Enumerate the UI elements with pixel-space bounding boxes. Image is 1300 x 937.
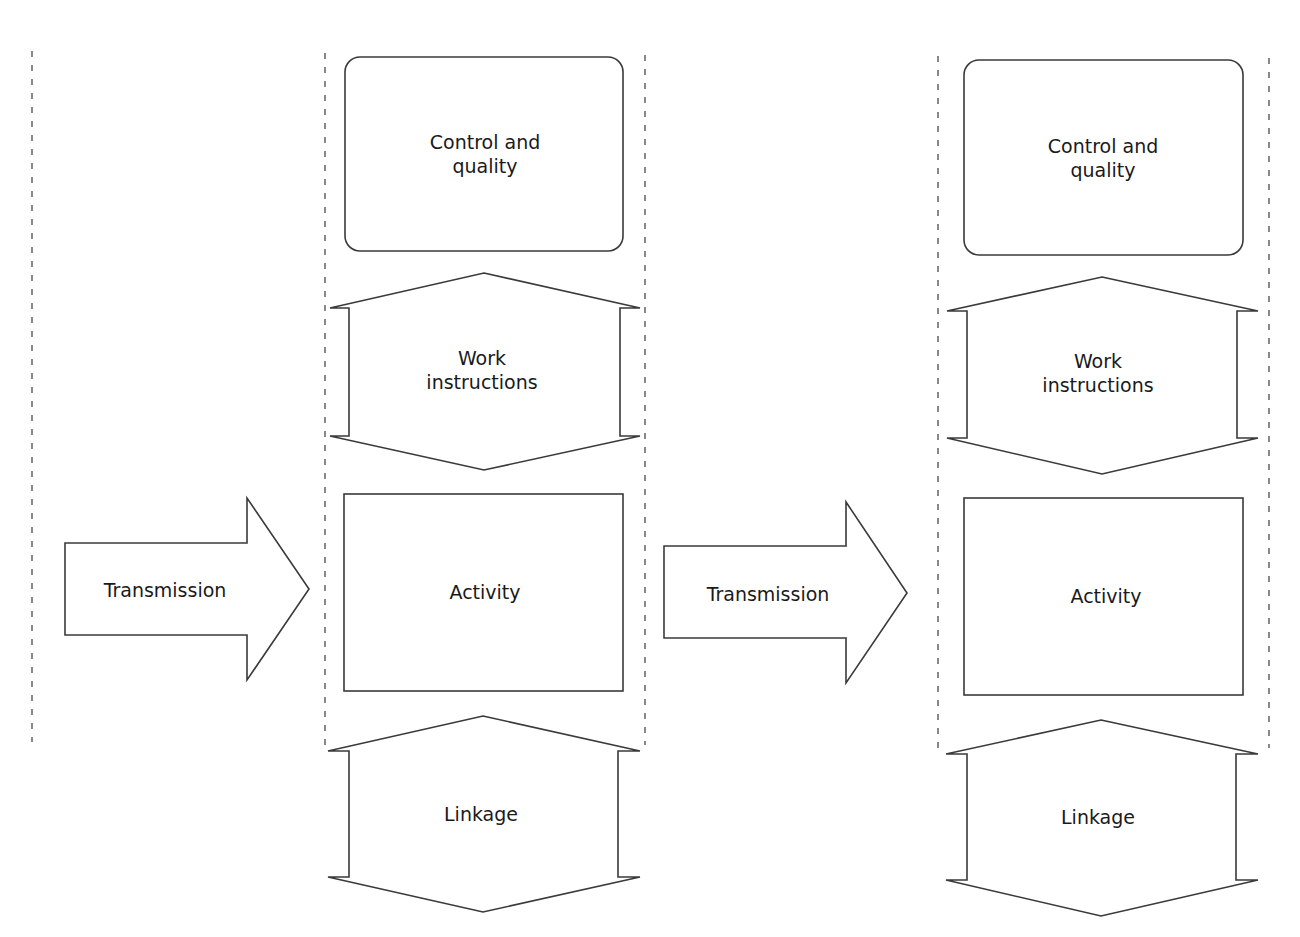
linkage-label-1: Linkage (444, 802, 518, 826)
activity-label-1: Activity (449, 580, 520, 604)
activity-label-2: Activity (1070, 584, 1141, 608)
linkage-label-2: Linkage (1061, 805, 1135, 829)
work-instructions-label-2: Work instructions (1042, 349, 1153, 397)
control-quality-label-1: Control and quality (430, 130, 540, 178)
transmission-label-2: Transmission (707, 582, 830, 606)
transmission-label-1: Transmission (104, 578, 227, 602)
work-instructions-label-1: Work instructions (426, 346, 537, 394)
control-quality-label-2: Control and quality (1048, 134, 1158, 182)
